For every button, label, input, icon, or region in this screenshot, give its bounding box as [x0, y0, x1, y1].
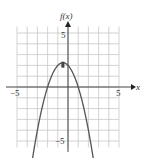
y-tick-neg5: −5: [55, 136, 65, 146]
y-axis-label: f(x): [60, 11, 73, 21]
x-tick-neg5: −5: [10, 88, 20, 98]
x-tick-pos5: 5: [116, 88, 121, 98]
x-axis-label: x: [135, 82, 140, 92]
y-axis-arrow-icon: [65, 21, 71, 27]
y-tick-pos5: 5: [61, 30, 66, 40]
chart-svg: f(x) x −5 5 5 −5: [0, 0, 148, 158]
vertex-marker: [61, 62, 64, 68]
